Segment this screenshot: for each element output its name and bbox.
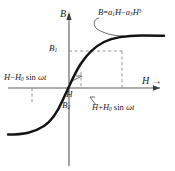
label-b2-subscript: 2 [68, 104, 71, 110]
x-axis-label: H → [142, 76, 162, 86]
left-mod-h0-subscript: 0 [21, 76, 24, 82]
bh-curve [8, 36, 164, 135]
y-axis-label: B [60, 9, 66, 19]
right-mod-sin: sin [114, 102, 124, 112]
leader-equation [94, 18, 124, 36]
label-h-operating-point: H [66, 90, 73, 99]
label-b2: B2 [62, 101, 70, 111]
x-axis-arrow-glyph: → [152, 75, 162, 86]
label-b1-subscript: 1 [55, 47, 58, 53]
figure-canvas: B H → B1 B2 H B=a1H−a3H3 H−H0 sin ωt H+H… [0, 0, 175, 171]
right-mod-omega-t: ωt [126, 102, 134, 112]
x-axis [8, 85, 160, 90]
equation-cubic-exponent: 3 [139, 8, 142, 14]
x-axis-label-text: H [142, 75, 149, 86]
equation-annotation: B=a1H−a3H3 [98, 8, 142, 18]
left-mod-sin: sin [26, 72, 36, 82]
right-mod-h0-subscript: 0 [109, 106, 112, 112]
y-axis-arrowhead [66, 12, 71, 20]
annotation-h-plus-modulation: H+H0 sin ωt [92, 103, 134, 113]
x-axis-arrowhead [153, 85, 160, 90]
annotation-h-minus-modulation: H−H0 sin ωt [4, 73, 46, 83]
left-mod-omega-t: ωt [38, 72, 46, 82]
label-b1: B1 [49, 44, 57, 54]
leader-lines [72, 18, 124, 105]
